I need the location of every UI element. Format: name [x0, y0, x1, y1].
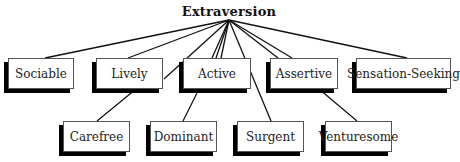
node-assertive: Assertive	[270, 58, 338, 89]
node-dominant: Dominant	[150, 121, 217, 152]
node-carefree: Carefree	[63, 121, 130, 152]
connector-line	[97, 89, 136, 121]
node-lively: Lively	[96, 58, 163, 89]
connector-line	[319, 89, 357, 121]
node-label: Dominant	[154, 130, 214, 144]
node-venturesome: Venturesome	[325, 121, 392, 152]
node-active: Active	[183, 58, 251, 89]
node-sensation-seeking: Sensation-Seeking	[356, 58, 451, 89]
connector-line	[229, 20, 407, 58]
node-sociable: Sociable	[8, 58, 74, 89]
connector-line	[229, 20, 292, 58]
connector-line	[183, 93, 197, 121]
node-label: Assertive	[276, 67, 332, 81]
node-label: Surgent	[246, 130, 295, 144]
node-label: Active	[198, 67, 236, 81]
node-surgent: Surgent	[237, 121, 304, 152]
node-label: Sociable	[15, 67, 67, 81]
node-label: Carefree	[70, 130, 124, 144]
node-label: Venturesome	[319, 130, 399, 144]
root-node-title: Extraversion	[0, 4, 458, 19]
connector-line	[45, 20, 229, 58]
node-label: Sensation-Seeking	[347, 67, 460, 81]
node-label: Lively	[111, 67, 147, 81]
